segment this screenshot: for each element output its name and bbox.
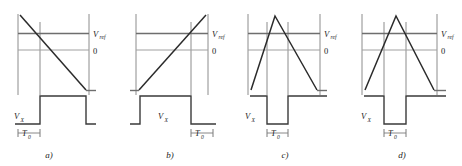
panel-c: V ref 0 V X T 0 c): [245, 14, 338, 160]
panel-d-vref-sublabel: ref: [448, 34, 455, 40]
panel-c-ramp: [251, 16, 317, 90]
panel-b-vx-sublabel: X: [164, 117, 169, 123]
panel-a-zero-label: 0: [93, 46, 97, 56]
panel-b-vref-sublabel: ref: [219, 34, 226, 40]
panel-d-vx-pulse: [364, 96, 446, 124]
panel-a-ramp: [20, 15, 86, 90]
panel-c-caption: c): [282, 150, 289, 160]
panel-c-vref-sublabel: ref: [331, 34, 338, 40]
panel-a-vx-sublabel: X: [20, 117, 25, 123]
panel-b-t0-sublabel: 0: [201, 134, 204, 140]
panel-a-t0-sublabel: 0: [28, 134, 31, 140]
panel-c-t0-sublabel: 0: [277, 134, 280, 140]
waveform-figure: V ref 0 V X T 0 a): [0, 0, 462, 166]
panel-d-vx-sublabel: X: [367, 117, 372, 123]
panel-b-caption: b): [166, 150, 174, 160]
panel-b: V ref 0 V X T 0 b): [130, 14, 226, 160]
panel-d-zero-label: 0: [441, 46, 445, 56]
panel-b-ramp: [139, 15, 206, 90]
panel-a-vref-sublabel: ref: [100, 34, 107, 40]
panel-d: V ref 0 V X T 0 d): [361, 14, 455, 160]
panel-d-caption: d): [398, 150, 406, 160]
waveform-svg: V ref 0 V X T 0 a): [0, 0, 462, 166]
panel-d-ramp: [365, 16, 434, 90]
panel-c-zero-label: 0: [324, 46, 328, 56]
panel-a-vx-pulse: [15, 96, 96, 124]
panel-d-t0-sublabel: 0: [394, 134, 397, 140]
panel-b-zero-label: 0: [212, 46, 216, 56]
panel-a: V ref 0 V X T 0 a): [14, 14, 107, 160]
panel-b-vx-pulse: [130, 96, 216, 124]
panel-c-vx-pulse: [250, 96, 327, 124]
panel-a-caption: a): [45, 150, 53, 160]
panel-c-vx-sublabel: X: [251, 117, 256, 123]
